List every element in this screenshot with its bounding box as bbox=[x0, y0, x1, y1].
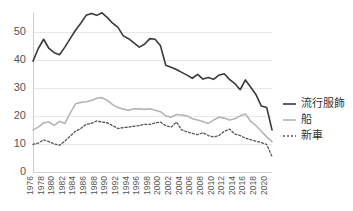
x-tick-label: 2012 bbox=[216, 176, 226, 195]
x-tick-label: 1990 bbox=[99, 176, 109, 195]
x-tick-label: 1984 bbox=[67, 176, 77, 195]
axis-lines bbox=[33, 12, 272, 173]
y-tick-label: 0 bbox=[20, 165, 26, 177]
series-lines bbox=[33, 13, 272, 157]
x-tick-label: 2008 bbox=[195, 176, 205, 195]
series-line-2 bbox=[33, 121, 272, 157]
x-tick-label: 1998 bbox=[142, 176, 152, 195]
x-tick-label: 2016 bbox=[237, 176, 247, 195]
legend: 流行服飾船新車 bbox=[283, 96, 345, 141]
y-tick-label: 10 bbox=[14, 137, 26, 149]
x-tick-label: 2018 bbox=[248, 176, 258, 195]
x-tick-label: 1992 bbox=[110, 176, 120, 195]
x-tick-label: 1986 bbox=[78, 176, 88, 195]
line-chart: 01020304050 1976197819801982198419861988… bbox=[0, 0, 353, 211]
x-tick-label: 1982 bbox=[57, 176, 67, 195]
y-tick-label: 50 bbox=[14, 25, 26, 37]
x-tick-label: 1994 bbox=[121, 176, 131, 195]
legend-label-1: 船 bbox=[301, 112, 312, 125]
x-tick-label: 1996 bbox=[131, 176, 141, 195]
x-tick-label: 2010 bbox=[206, 176, 216, 195]
gridlines bbox=[33, 33, 272, 145]
x-tick-label: 1980 bbox=[46, 176, 56, 195]
x-tick-label: 2004 bbox=[174, 176, 184, 195]
y-tick-label: 40 bbox=[14, 53, 26, 65]
x-axis-labels: 1976197819801982198419861988199019921994… bbox=[25, 176, 269, 195]
x-tick-label: 1988 bbox=[89, 176, 99, 195]
x-tick-label: 2014 bbox=[227, 176, 237, 195]
x-tick-label: 1976 bbox=[25, 176, 35, 195]
x-tick-label: 2002 bbox=[163, 176, 173, 195]
x-tick-label: 2020 bbox=[259, 176, 269, 195]
legend-label-0: 流行服飾 bbox=[301, 96, 345, 109]
y-axis-labels: 01020304050 bbox=[14, 25, 26, 177]
y-tick-label: 20 bbox=[14, 109, 26, 121]
x-tick-label: 2006 bbox=[184, 176, 194, 195]
x-tick-label: 2000 bbox=[152, 176, 162, 195]
chart-canvas: 01020304050 1976197819801982198419861988… bbox=[0, 0, 353, 211]
legend-label-2: 新車 bbox=[301, 128, 323, 141]
x-tick-label: 1978 bbox=[36, 176, 46, 195]
series-line-0 bbox=[33, 13, 272, 130]
y-tick-label: 30 bbox=[14, 81, 26, 93]
